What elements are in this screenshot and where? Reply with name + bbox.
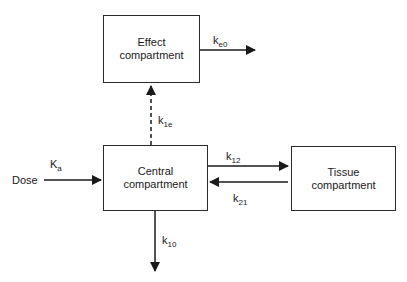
tissue-compartment: Tissuecompartment [291, 146, 396, 211]
tissue-label-line1: Tissue [327, 166, 359, 178]
effect-compartment: Effectcompartment [103, 15, 200, 83]
k1e-label: k1e [158, 114, 172, 129]
arrows-layer [0, 0, 407, 282]
central-label-line1: Central [138, 165, 173, 177]
central-compartment: Centralcompartment [103, 145, 208, 211]
k12-label: k12 [226, 150, 240, 165]
k10-label: k10 [162, 234, 176, 249]
dose-label: Dose [12, 174, 38, 186]
tissue-label-line2: compartment [311, 179, 375, 191]
effect-label-line1: Effect [138, 36, 166, 48]
effect-label-line2: compartment [119, 49, 183, 61]
central-label-line2: compartment [123, 178, 187, 190]
k21-label: k21 [233, 192, 247, 207]
ke0-label: ke0 [213, 34, 227, 49]
ka-label: Ka [50, 158, 62, 173]
